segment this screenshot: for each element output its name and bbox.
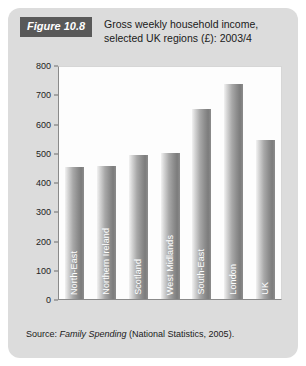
- bar-category-label: South-East: [192, 249, 211, 295]
- figure-number-badge: Figure 10.8: [20, 17, 92, 37]
- bar-category-label: Scotland: [129, 259, 148, 295]
- bar-slot: Scotland: [122, 67, 154, 299]
- y-axis-tick: 200: [20, 237, 58, 246]
- y-axis-tick: 600: [20, 120, 58, 129]
- y-axis-tick: 700: [20, 91, 58, 100]
- source-prefix: Source:: [26, 329, 60, 339]
- bar: South-East: [192, 109, 211, 299]
- bar-category-label: London: [224, 264, 243, 295]
- bar: London: [224, 84, 243, 299]
- figure-card: Figure 10.8 Gross weekly household incom…: [8, 8, 298, 358]
- bar-slot: West Midlands: [154, 67, 186, 299]
- y-axis-tick-label: 300: [36, 208, 54, 217]
- figure-title: Gross weekly household income, selected …: [104, 17, 258, 45]
- y-axis-tick: 0: [20, 296, 58, 305]
- y-axis-tick-label: 200: [36, 237, 54, 246]
- figure-title-line-2: selected UK regions (£): 2003/4: [104, 32, 258, 46]
- bar-category-label: North-East: [65, 251, 84, 295]
- y-axis-tick: 300: [20, 208, 58, 217]
- y-axis-tick-label: 100: [36, 266, 54, 275]
- y-axis-tick-label: 400: [36, 179, 54, 188]
- y-axis-tick-label: 0: [46, 296, 54, 305]
- source-publication: Family Spending: [60, 329, 127, 339]
- y-axis: 0100200300400500600700800: [20, 66, 58, 300]
- y-axis-tick: 800: [20, 62, 58, 71]
- bar: Scotland: [129, 155, 148, 299]
- bar: North-East: [65, 167, 84, 299]
- y-axis-tick-label: 600: [36, 120, 54, 129]
- figure-header: Figure 10.8 Gross weekly household incom…: [20, 17, 288, 45]
- chart-plot-wrapper: 0100200300400500600700800 North-EastNort…: [20, 60, 286, 318]
- y-axis-tick: 100: [20, 266, 58, 275]
- bar-category-label: Northern Ireland: [97, 228, 116, 295]
- y-axis-tick-label: 700: [36, 91, 54, 100]
- source-note: Source: Family Spending (National Statis…: [26, 328, 234, 340]
- y-axis-tick-label: 800: [36, 62, 54, 71]
- bar-category-label: UK: [256, 282, 275, 295]
- figure-title-line-1: Gross weekly household income,: [104, 18, 258, 32]
- bar-category-label: West Midlands: [161, 235, 180, 295]
- bar: West Midlands: [161, 153, 180, 299]
- bar: Northern Ireland: [97, 166, 116, 299]
- y-axis-tick: 500: [20, 149, 58, 158]
- bar-slot: South-East: [186, 67, 218, 299]
- bar-slot: London: [218, 67, 250, 299]
- bar-slot: UK: [249, 67, 281, 299]
- bar: UK: [256, 140, 275, 300]
- y-axis-tick-label: 500: [36, 149, 54, 158]
- bar-series: North-EastNorthern IrelandScotlandWest M…: [59, 67, 281, 299]
- bar-slot: North-East: [59, 67, 91, 299]
- y-axis-tick: 400: [20, 179, 58, 188]
- bar-slot: Northern Ireland: [91, 67, 123, 299]
- source-suffix: (National Statistics, 2005).: [127, 329, 235, 339]
